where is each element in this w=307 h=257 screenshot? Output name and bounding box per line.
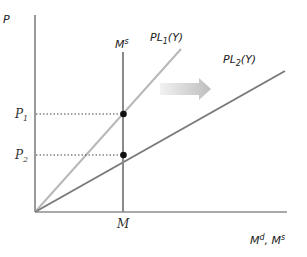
money-market-diagram: P Ms PL1(Y) PL2(Y) P1 P2 M Md, Ms (0, 0, 307, 257)
pl2-label: PL2(Y) (223, 53, 256, 68)
money-supply-label: Ms (115, 37, 129, 51)
shift-arrow-icon (160, 78, 211, 100)
equilibrium-point-1 (120, 111, 127, 118)
p2-label: P2 (14, 148, 28, 164)
y-axis-label: P (3, 13, 10, 26)
pl1-curve (35, 49, 181, 212)
m-tick-label: M (116, 217, 130, 231)
equilibrium-point-2 (120, 152, 127, 159)
pl1-label: PL1(Y) (150, 31, 183, 46)
x-axis-label: Md, Ms (250, 233, 285, 247)
p1-label: P1 (14, 107, 28, 123)
